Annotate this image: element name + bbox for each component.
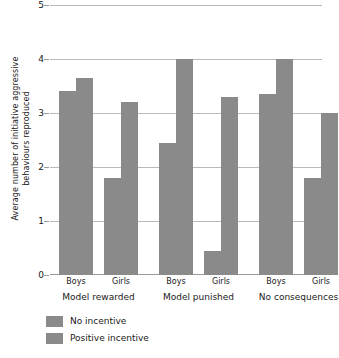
subcategory-label: Boys (153, 277, 199, 287)
y-axis-tick-label: 4 (24, 55, 44, 64)
bar (204, 251, 221, 275)
y-axis-tick (44, 5, 49, 6)
legend-label: Positive incentive (70, 333, 149, 344)
bar (121, 102, 138, 275)
group-labels: Model rewardedModel punishedNo consequen… (50, 291, 322, 305)
group-label: Model punished (147, 291, 250, 303)
bar (276, 59, 293, 275)
subcategory-labels: BoysGirlsBoysGirlsBoysGirls (50, 277, 322, 289)
bar (321, 113, 338, 275)
subcategory-label: Girls (298, 277, 339, 287)
y-axis-tick (44, 59, 49, 60)
y-axis-tick-label: 0 (24, 271, 44, 280)
bar (159, 143, 176, 275)
bar (59, 91, 76, 275)
y-axis-tick-label: 3 (24, 109, 44, 118)
bar (221, 97, 238, 275)
subcategory-label: Girls (198, 277, 244, 287)
y-axis-tick-label: 5 (24, 1, 44, 10)
bar (104, 178, 121, 275)
subcategory-label: Boys (53, 277, 99, 287)
bar (176, 59, 193, 275)
legend-item-positive-incentive: Positive incentive (46, 331, 149, 346)
y-axis-tick (44, 113, 49, 114)
legend-item-no-incentive: No incentive (46, 314, 149, 329)
bar (76, 78, 93, 275)
legend-label: No incentive (70, 316, 126, 327)
legend: No incentive Positive incentive (46, 314, 149, 348)
y-axis-tick-label: 1 (24, 217, 44, 226)
y-axis-tick-label: 2 (24, 163, 44, 172)
bar (259, 94, 276, 275)
y-axis-title: Average number of initiative aggressive … (11, 39, 32, 239)
legend-swatch-icon (46, 316, 63, 327)
y-axis-tick (44, 275, 49, 276)
bar-chart: Average number of initiative aggressive … (0, 0, 339, 358)
group-label: No consequences (247, 291, 339, 303)
plot-area: 012345 (50, 5, 322, 275)
bar (304, 178, 321, 275)
legend-swatch-icon (46, 333, 63, 344)
group-label: Model rewarded (47, 291, 150, 303)
subcategory-label: Girls (98, 277, 144, 287)
y-axis-tick (44, 167, 49, 168)
y-axis-tick (44, 221, 49, 222)
bar-series-container (50, 5, 322, 275)
subcategory-label: Boys (253, 277, 299, 287)
